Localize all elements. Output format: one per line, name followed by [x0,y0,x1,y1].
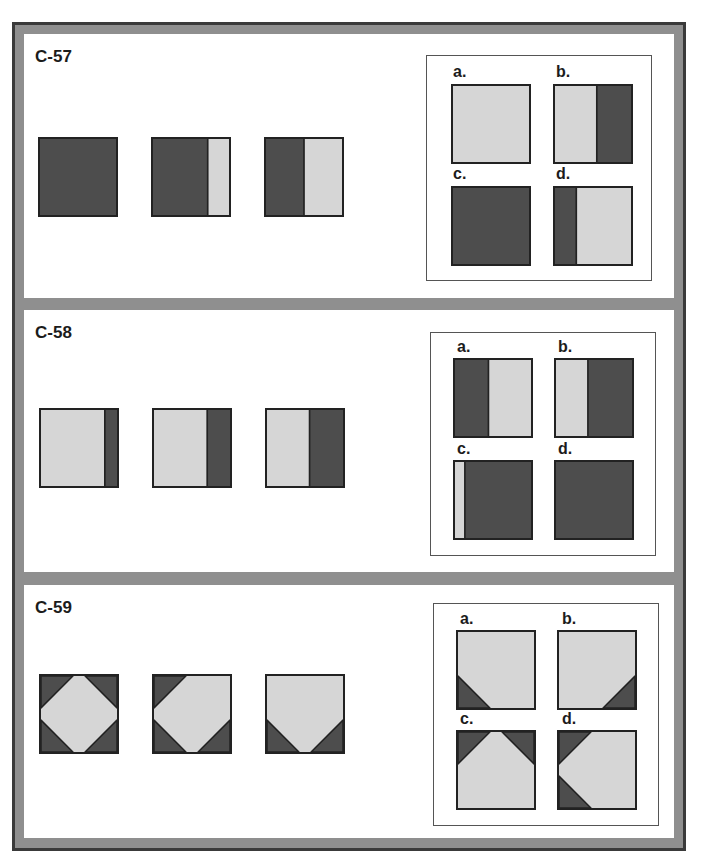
option-tile-c[interactable] [453,460,533,540]
sequence-tile [264,137,344,217]
option-label-a: a. [453,63,466,81]
option-label-a: a. [460,610,473,628]
option-label-d: d. [562,710,576,728]
sequence-tile [265,408,345,488]
problem-title: C-58 [35,323,72,343]
option-tile-a[interactable] [451,84,531,164]
option-label-b: b. [562,610,576,628]
sequence-tile [38,137,118,217]
option-tile-b[interactable] [554,358,634,438]
option-tile-b[interactable] [553,84,633,164]
problem-title: C-59 [35,598,72,618]
sequence-tile [152,408,232,488]
option-label-d: d. [556,165,570,183]
sequence-tile [265,674,345,754]
option-label-c: c. [457,440,470,458]
option-tile-d[interactable] [557,730,637,810]
sequence-tile [152,674,232,754]
option-tile-c[interactable] [456,730,536,810]
option-tile-a[interactable] [456,630,536,710]
option-tile-d[interactable] [553,186,633,266]
option-tile-a[interactable] [453,358,533,438]
option-label-b: b. [558,338,572,356]
sequence-tile [39,408,119,488]
sequence-tile [39,674,119,754]
option-tile-d[interactable] [554,460,634,540]
option-label-c: c. [460,710,473,728]
option-label-a: a. [457,338,470,356]
option-tile-c[interactable] [451,186,531,266]
option-label-d: d. [558,440,572,458]
problem-title: C-57 [35,47,72,67]
sequence-tile [151,137,231,217]
option-label-c: c. [453,165,466,183]
option-tile-b[interactable] [557,630,637,710]
option-label-b: b. [556,63,570,81]
